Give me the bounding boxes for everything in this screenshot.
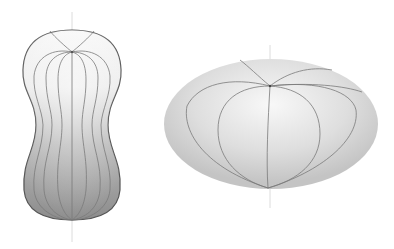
peanut-shape [23, 12, 121, 242]
pole-point-left [71, 51, 73, 53]
figure-canvas [0, 0, 394, 249]
oblate-spheroid-shape [164, 45, 378, 208]
spheroid-body [164, 59, 378, 189]
pole-point-right [269, 85, 271, 87]
